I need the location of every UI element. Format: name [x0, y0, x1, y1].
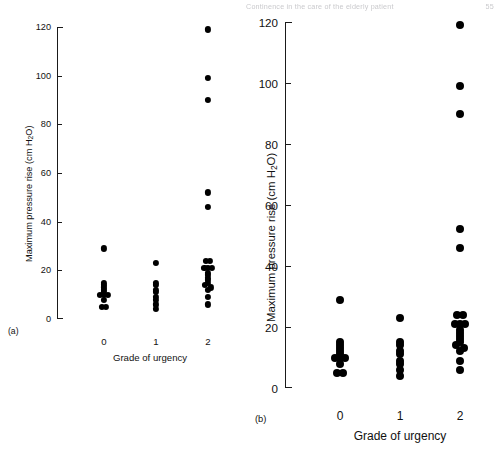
data-point [456, 225, 464, 233]
y-axis-tick-label: 0 [46, 314, 51, 324]
data-point [205, 97, 211, 103]
y-axis-tick-label: 0 [272, 382, 278, 395]
data-point [205, 75, 211, 81]
y-axis-title-main: Maximum pressure rise (cm H [265, 170, 277, 322]
y-axis-tick [58, 76, 62, 77]
x-axis-title: Grade of urgency [354, 429, 447, 443]
y-axis-tick [286, 144, 291, 145]
y-axis-tick [286, 266, 291, 267]
data-point [205, 287, 211, 293]
x-axis-tick-label: 1 [397, 409, 404, 423]
y-axis-tick-label: 80 [41, 119, 51, 129]
y-axis-tick [58, 124, 62, 125]
data-point [103, 304, 109, 310]
panel-letter-a: (a) [8, 326, 19, 336]
data-point [101, 245, 107, 251]
data-point [456, 347, 464, 355]
data-point [101, 296, 107, 302]
y-axis-tick-label: 120 [259, 16, 278, 29]
y-axis-tick [58, 270, 62, 271]
y-axis-tick-label: 100 [259, 77, 278, 90]
y-axis-title-main: Maximum pressure rise (cm H [24, 139, 34, 262]
data-point [456, 366, 464, 374]
y-axis-tick-label: 20 [41, 265, 51, 275]
y-axis-cap-bottom [285, 387, 292, 388]
figure-panel-a: 020406080100120Maximum pressure rise (cm… [0, 0, 248, 449]
y-axis-title-tail: O) [265, 153, 277, 166]
y-axis-cap-top [285, 22, 292, 23]
y-axis-tick [58, 222, 62, 223]
data-point [456, 357, 464, 365]
y-axis-title: Maximum pressure rise (cm H2O) [24, 125, 34, 262]
y-axis-tick-label: 80 [265, 138, 278, 151]
y-axis-tick [58, 173, 62, 174]
panel-letter-b: (b) [255, 413, 266, 424]
x-axis-tick-label: 2 [457, 409, 464, 423]
y-axis-tick-label: 100 [36, 71, 51, 81]
y-axis-tick [286, 327, 291, 328]
y-axis-tick-label: 120 [36, 22, 51, 32]
x-axis-tick-label: 2 [205, 336, 210, 347]
y-axis-title-subscript: 2 [269, 165, 279, 170]
x-axis-tick-label: 0 [337, 409, 344, 423]
figure-panel-b: 020406080100120Maximum pressure rise (cm… [248, 0, 496, 449]
data-point [456, 110, 464, 118]
data-point [205, 26, 211, 32]
data-point [153, 306, 159, 312]
x-axis-tick-label: 1 [153, 336, 158, 347]
y-axis-title-subscript: 2 [27, 136, 34, 140]
y-axis-tick [286, 83, 291, 84]
data-point [459, 311, 467, 319]
y-axis-tick-label: 60 [41, 168, 51, 178]
y-axis-tick [286, 205, 291, 206]
data-point [336, 296, 344, 304]
y-axis-tick-label: 20 [265, 321, 278, 334]
data-point [336, 360, 344, 368]
data-point [205, 189, 211, 195]
y-axis-title: Maximum pressure rise (cm H2O) [265, 153, 279, 322]
y-axis-cap-top [57, 27, 63, 28]
plot-area-a: 020406080100120Maximum pressure rise (cm… [0, 0, 248, 449]
x-axis-tick-label: 0 [101, 336, 106, 347]
x-axis-title: Grade of urgency [113, 352, 187, 363]
data-point [153, 260, 159, 266]
data-point [456, 82, 464, 90]
plot-area-b: 020406080100120Maximum pressure rise (cm… [248, 0, 496, 449]
y-axis-tick-label: 40 [41, 217, 51, 227]
data-point [207, 258, 213, 264]
data-point [396, 314, 404, 322]
data-point [396, 372, 404, 380]
y-axis-title-tail: O) [24, 125, 34, 135]
data-point [456, 21, 464, 29]
data-point [339, 369, 347, 377]
data-point [205, 294, 211, 300]
y-axis-cap-bottom [57, 318, 63, 319]
data-point [205, 204, 211, 210]
data-point [456, 244, 464, 252]
data-point [205, 301, 211, 307]
